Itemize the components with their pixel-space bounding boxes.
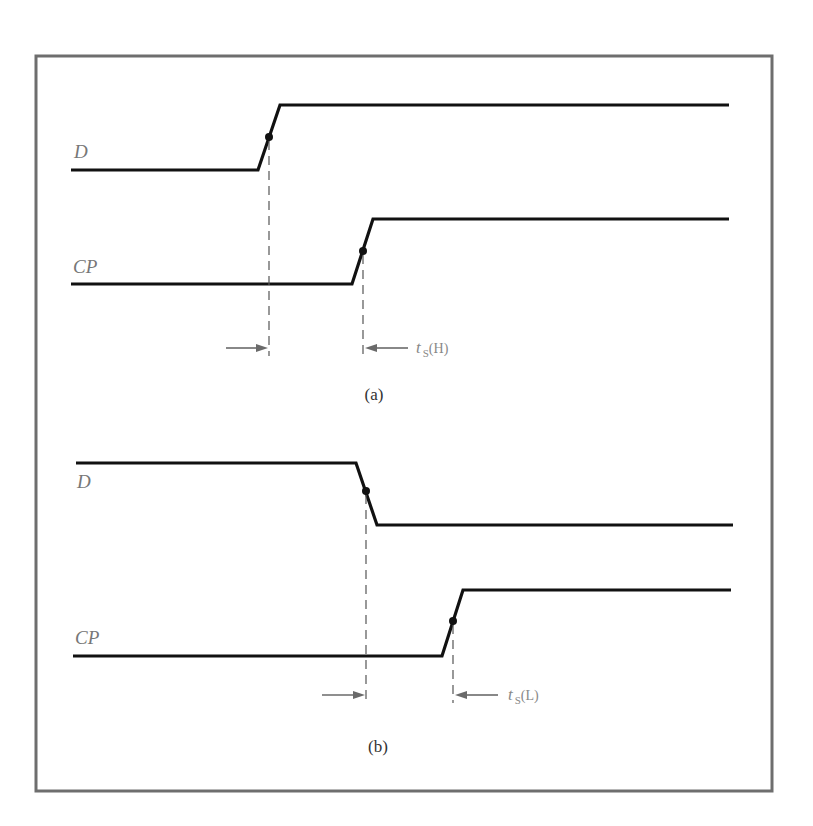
signal-cp-a: CP [71, 219, 729, 284]
panel-caption-b: (b) [368, 737, 388, 756]
arrow-left-icon [365, 344, 377, 352]
threshold-dot [265, 133, 273, 141]
setup-time-timing-diagram: D CP tS(H) (a) D [0, 0, 813, 826]
waveform-cp-rising [73, 590, 731, 656]
panel-b: D CP tS(L) (b) [73, 463, 733, 756]
signal-d-b: D [76, 463, 733, 525]
arrow-right-icon [256, 344, 268, 352]
signal-d-a: D [71, 105, 729, 170]
signal-label-d: D [76, 471, 91, 492]
signal-cp-b: CP [73, 590, 731, 656]
arrow-right-icon [353, 691, 365, 699]
signal-label-d: D [73, 141, 88, 162]
panel-a: D CP tS(H) (a) [71, 105, 729, 404]
panel-caption-a: (a) [365, 385, 384, 404]
figure-frame [36, 56, 772, 791]
threshold-dot [359, 247, 367, 255]
arrow-left-icon [455, 691, 467, 699]
setup-time-high-label: tS(H) [416, 338, 449, 359]
setup-time-high-dimension: tS(H) [226, 338, 449, 359]
waveform-d-rising [71, 105, 729, 170]
waveform-cp-rising [71, 219, 729, 284]
signal-label-cp: CP [75, 627, 100, 648]
waveform-d-falling [76, 463, 733, 525]
threshold-dot [449, 617, 457, 625]
signal-label-cp: CP [73, 256, 98, 277]
setup-time-low-dimension: tS(L) [322, 685, 539, 706]
setup-time-low-label: tS(L) [508, 685, 539, 706]
threshold-dot [362, 487, 370, 495]
